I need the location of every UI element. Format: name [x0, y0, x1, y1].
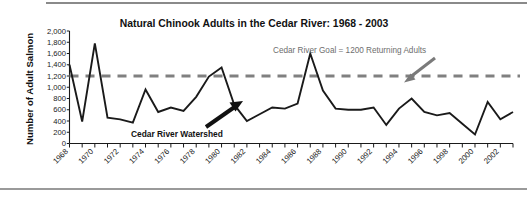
y-axis-tick-label: 1,400 — [47, 60, 66, 69]
y-axis-tick-label: 1,000 — [47, 83, 66, 92]
x-axis-tick-label: 1978 — [178, 147, 197, 166]
x-axis-tick-label: 1970 — [77, 147, 96, 166]
x-axis-tick-label: 2000 — [457, 147, 476, 166]
y-axis-tick-label: 400 — [53, 117, 66, 126]
x-axis-tick-label: 1982 — [229, 147, 248, 166]
x-axis-tick-label: 1998 — [431, 147, 450, 166]
x-axis-tick-label: 1990 — [330, 147, 349, 166]
x-axis-tick-label: 1976 — [153, 147, 172, 166]
y-axis-title: Number of Adult Salmon — [24, 33, 35, 145]
x-axis-tick-labels: 1968197019721974197619781980198219841986… — [51, 147, 500, 166]
x-axis-tick-label: 1968 — [51, 147, 70, 166]
x-axis-tick-label: 1994 — [381, 147, 400, 166]
x-axis-tick-label: 1974 — [127, 147, 146, 166]
goal-annotation-label: Cedar River Goal = 1200 Returning Adults — [273, 46, 426, 55]
y-axis-tick-label: 200 — [53, 128, 66, 137]
watershed-annotation-arrow-icon — [206, 101, 243, 127]
y-axis-tick-label: 2,000 — [47, 27, 66, 36]
y-axis-tick-label: 1,800 — [47, 38, 66, 47]
line-chart: Number of Adult Salmon Natural Chinook A… — [0, 0, 527, 200]
y-axis-tick-label: 800 — [53, 94, 66, 103]
y-axis-tick-labels: 02004006008001,0001,2001,4001,6001,8002,… — [47, 27, 66, 149]
chart-figure: Number of Adult Salmon Natural Chinook A… — [0, 0, 527, 200]
watershed-annotation-label: Cedar River Watershed — [131, 129, 223, 139]
x-axis-tick-label: 1980 — [203, 147, 222, 166]
y-axis-tick-label: 1,600 — [47, 49, 66, 58]
x-axis-tick-label: 1988 — [305, 147, 324, 166]
x-axis-tick-label: 1996 — [406, 147, 425, 166]
x-axis-tick-label: 1984 — [254, 147, 273, 166]
y-axis-tick-label: 1,200 — [47, 72, 66, 81]
chart-title: Natural Chinook Adults in the Cedar Rive… — [120, 18, 389, 29]
x-axis-tick-label: 2002 — [482, 147, 501, 166]
x-axis-tick-label: 1986 — [279, 147, 298, 166]
x-axis-tick-label: 1992 — [355, 147, 374, 166]
x-axis-tick-label: 1972 — [102, 147, 121, 166]
y-axis-tick-label: 600 — [53, 105, 66, 114]
goal-annotation-arrow-icon — [404, 58, 435, 83]
salmon-count-line — [70, 43, 514, 134]
